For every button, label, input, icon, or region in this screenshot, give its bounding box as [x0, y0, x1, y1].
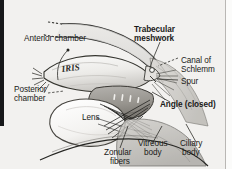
label-angle-closed: Angle (closed)	[160, 100, 216, 109]
label-vitreous-body-line1: Vitreous	[138, 139, 168, 148]
right-margin-fade	[226, 0, 232, 169]
label-zonular-fibers-line1: Zonular	[104, 148, 131, 157]
label-posterior-chamber-line2: chamber	[14, 94, 46, 103]
label-anterior-chamber: Anterior chamber	[24, 34, 86, 43]
cornea-dash-upper	[48, 22, 62, 24]
label-vitreous-body-line2: body	[144, 148, 162, 157]
eye-anatomy-figure: IRIS	[0, 0, 232, 169]
label-spur: Spur	[181, 77, 198, 86]
label-trabecular-meshwork-line1: Trabecular	[134, 25, 175, 34]
label-posterior-chamber-line1: Posterior	[14, 85, 46, 94]
label-trabecular-meshwork-line2: meshwork	[134, 34, 174, 43]
label-lens: Lens	[82, 113, 100, 122]
right-edge-rule	[225, 0, 226, 169]
label-canal-of-schlemm-line2: Schlemm	[181, 65, 215, 74]
canal-of-schlemm-shape	[150, 68, 155, 73]
label-ciliary-body-line1: Ciliary	[180, 139, 202, 148]
label-canal-of-schlemm-line1: Canal of	[181, 56, 211, 65]
leader-posterior-chamber	[48, 91, 64, 93]
label-zonular-fibers-line2: fibers	[110, 157, 130, 166]
label-ciliary-body-line2: body	[182, 148, 200, 157]
left-edge-bar	[0, 0, 4, 126]
